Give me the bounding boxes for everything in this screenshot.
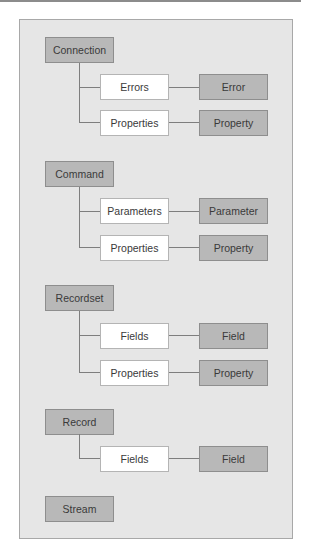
object-label: Property <box>214 242 254 254</box>
record-object: Record <box>45 409 114 435</box>
object-label: Field <box>222 330 245 342</box>
object-label: Property <box>214 367 254 379</box>
collection-label: Properties <box>111 242 159 254</box>
record-label: Record <box>63 416 97 428</box>
property-object: Property <box>199 235 268 261</box>
object-label: Parameter <box>209 205 258 217</box>
connector-line <box>79 335 100 336</box>
field-object: Field <box>199 446 268 472</box>
connection-label: Connection <box>53 44 106 56</box>
object-label: Error <box>222 81 245 93</box>
error-object: Error <box>199 74 268 100</box>
connector-line <box>79 187 80 248</box>
connector-line <box>169 372 199 373</box>
collection-label: Properties <box>111 367 159 379</box>
connector-line <box>169 211 199 212</box>
connector-line <box>79 122 100 123</box>
connector-line <box>79 87 100 88</box>
recordset-label: Recordset <box>56 292 104 304</box>
object-label: Field <box>222 453 245 465</box>
connection-object: Connection <box>45 37 114 63</box>
connector-line <box>79 247 100 248</box>
collection-label: Fields <box>120 453 148 465</box>
connector-line <box>169 247 199 248</box>
connector-line <box>79 434 80 459</box>
collection-label: Errors <box>120 81 149 93</box>
fields-collection: Fields <box>100 446 169 472</box>
command-object: Command <box>45 161 114 187</box>
object-label: Property <box>214 117 254 129</box>
errors-collection: Errors <box>100 74 169 100</box>
property-object: Property <box>199 110 268 136</box>
recordset-object: Recordset <box>45 285 114 311</box>
property-object: Property <box>199 360 268 386</box>
properties-collection: Properties <box>100 235 169 261</box>
connector-line <box>79 458 100 459</box>
connector-line <box>169 122 199 123</box>
connector-line <box>169 335 199 336</box>
connector-line <box>79 63 80 123</box>
connector-line <box>79 372 100 373</box>
fields-collection: Fields <box>100 323 169 349</box>
connector-line <box>169 458 199 459</box>
connector-line <box>79 211 100 212</box>
stream-object: Stream <box>45 496 114 522</box>
properties-collection: Properties <box>100 360 169 386</box>
connector-line <box>169 87 199 88</box>
field-object: Field <box>199 323 268 349</box>
collection-label: Parameters <box>107 205 161 217</box>
collection-label: Properties <box>111 117 159 129</box>
collection-label: Fields <box>120 330 148 342</box>
parameters-collection: Parameters <box>100 198 169 224</box>
parameter-object: Parameter <box>199 198 268 224</box>
command-label: Command <box>55 168 103 180</box>
properties-collection: Properties <box>100 110 169 136</box>
stream-label: Stream <box>63 503 97 515</box>
connector-line <box>79 311 80 373</box>
top-rule <box>0 0 301 2</box>
